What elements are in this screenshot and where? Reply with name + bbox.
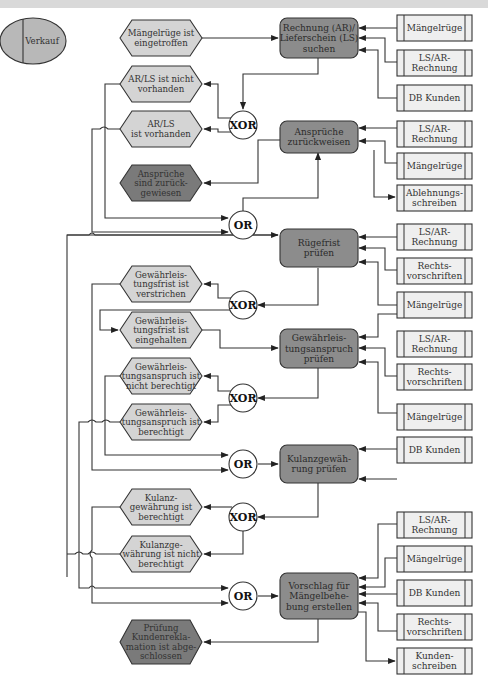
node-label-line: LS/AR- xyxy=(419,334,451,344)
node-label-line: berechtigt xyxy=(138,427,184,437)
event-e6[interactable]: Gewährleis-tungsfrist isteingehalten xyxy=(120,312,202,348)
document-d4[interactable]: LS/AR-Rechnung xyxy=(397,121,472,147)
node-label-line: gewiesen xyxy=(141,188,182,198)
document-d9[interactable]: Mängelrüge xyxy=(397,292,472,318)
node-label-line: Mängelrüge xyxy=(407,412,463,422)
node-label-line: prüfen xyxy=(304,354,335,364)
event-e3[interactable]: AR/LSist vorhanden xyxy=(120,111,202,147)
node-label-line: AR/LS ist nicht xyxy=(127,74,194,84)
node-label-line: ist vorhanden xyxy=(131,129,191,139)
document-d6[interactable]: Ablehnungs-schreiben xyxy=(397,185,472,211)
document-d18[interactable]: Kunden-schreiben xyxy=(397,648,472,674)
function-f4[interactable]: Gewährleis-tungsanspruchprüfen xyxy=(280,329,358,368)
document-d11[interactable]: Rechts-vorschriften xyxy=(397,364,472,390)
function-f3[interactable]: Rügefristprüfen xyxy=(280,229,358,267)
node-label-line: tungsanspruch ist xyxy=(122,371,201,381)
document-d12[interactable]: Mängelrüge xyxy=(397,404,472,430)
operator-label: OR xyxy=(234,458,254,471)
node-label-line: rung prüfen xyxy=(292,464,347,474)
function-f1[interactable]: Rechnung (AR)/Lieferschein (LS)suchen xyxy=(280,18,359,58)
node-label-line: Kulanz- xyxy=(145,493,178,503)
event-e2[interactable]: AR/LS ist nichtvorhanden xyxy=(120,66,202,102)
node-label-line: prüfen xyxy=(304,248,335,258)
document-d5[interactable]: Mängelrüge xyxy=(397,153,472,179)
event-e11[interactable]: PrüfungKundenrekla-mation ist abge-schlo… xyxy=(120,620,202,664)
node-label-line: Rügefrist xyxy=(298,238,341,248)
node-label-line: LS/AR- xyxy=(419,515,451,525)
node-label-line: LS/AR- xyxy=(419,124,451,134)
operator-xor-x2[interactable]: XOR xyxy=(229,291,257,319)
operator-or-o1[interactable]: OR xyxy=(229,211,257,239)
node-label-line: eingetroffen xyxy=(134,38,188,48)
operator-label: OR xyxy=(234,219,254,232)
document-d15[interactable]: Mängelrüge xyxy=(397,546,472,572)
document-d1[interactable]: Mängelrüge xyxy=(397,15,472,41)
event-e10[interactable]: Kulanzge-währung ist nichtberechtigt xyxy=(120,536,202,572)
node-label-line: Kunden- xyxy=(415,651,453,661)
documents: MängelrügeLS/AR-RechnungDB KundenLS/AR-R… xyxy=(397,15,472,674)
operator-label: XOR xyxy=(229,392,257,405)
node-label-line: Rechnung xyxy=(411,525,457,535)
node-label-line: Ansprüche xyxy=(294,127,344,137)
node-label-line: vorschriften xyxy=(406,271,463,281)
node-label-line: DB Kunden xyxy=(409,445,461,455)
node-label-line: LS/AR- xyxy=(419,53,451,63)
node-label-line: vorschriften xyxy=(406,627,463,637)
node-label-line: sind zurück- xyxy=(134,178,188,188)
node-label-line: Mängelrüge xyxy=(407,300,463,310)
node-label-line: tungsfrist ist xyxy=(133,325,189,335)
document-d16[interactable]: DB Kunden xyxy=(397,580,472,606)
node-label-line: schlossen xyxy=(140,651,183,661)
operator-xor-x3[interactable]: XOR xyxy=(229,384,257,412)
node-label-line: Rechts- xyxy=(417,367,451,377)
node-label-line: bung erstellen xyxy=(286,602,352,612)
node-label-line: Gewährleis- xyxy=(135,362,187,372)
org-unit-label: Verkauf xyxy=(24,36,59,46)
document-d7[interactable]: LS/AR-Rechnung xyxy=(397,224,472,250)
event-e4[interactable]: Ansprüchesind zurück-gewiesen xyxy=(120,165,202,201)
node-label-line: Kundenrekla- xyxy=(132,632,191,642)
operator-xor-x4[interactable]: XOR xyxy=(229,503,257,531)
node-label-line: DB Kunden xyxy=(409,588,461,598)
operator-or-o3[interactable]: OR xyxy=(229,582,257,610)
node-label-line: Ablehnungs- xyxy=(405,188,463,198)
operator-xor-x1[interactable]: XOR xyxy=(229,111,257,139)
node-label-line: nicht berechtigt xyxy=(126,381,197,391)
node-label-line: zurückweisen xyxy=(288,137,351,147)
operator-label: XOR xyxy=(229,119,257,132)
document-d14[interactable]: LS/AR-Rechnung xyxy=(397,512,472,538)
operator-label: XOR xyxy=(229,299,257,312)
document-d13[interactable]: DB Kunden xyxy=(397,437,472,463)
event-e5[interactable]: Gewährleis-tungsfrist istverstrichen xyxy=(120,266,202,302)
node-label-line: Gewährleis- xyxy=(292,333,346,343)
org-unit-verkauf[interactable]: Verkauf xyxy=(0,18,66,64)
node-label-line: schreiben xyxy=(412,661,457,671)
events: Mängelrüge isteingetroffenAR/LS ist nich… xyxy=(120,20,202,664)
node-label-line: Kulanzgewäh- xyxy=(287,454,351,464)
node-label-line: schreiben xyxy=(412,198,457,208)
event-e1[interactable]: Mängelrüge isteingetroffen xyxy=(120,20,202,56)
event-e8[interactable]: Gewährleis-tungsanspruch istberechtigt xyxy=(120,404,202,440)
event-e9[interactable]: Kulanz-gewährung istberechtigt xyxy=(120,489,202,525)
function-f5[interactable]: Kulanzgewäh-rung prüfen xyxy=(280,445,358,483)
node-label-line: Rechnung xyxy=(411,63,457,73)
document-d8[interactable]: Rechts-vorschriften xyxy=(397,258,472,284)
node-label-line: Lieferschein (LS) xyxy=(280,33,359,43)
document-d2[interactable]: LS/AR-Rechnung xyxy=(397,50,472,76)
function-f6[interactable]: Vorschlag fürMängelbehe-bung erstellen xyxy=(280,573,358,619)
function-f2[interactable]: Ansprüchezurückweisen xyxy=(280,121,358,153)
node-label-line: Mängelrüge ist xyxy=(128,28,195,38)
node-label-line: Mängelrüge xyxy=(407,161,463,171)
node-label-line: DB Kunden xyxy=(409,93,461,103)
operator-or-o2[interactable]: OR xyxy=(229,450,257,478)
event-e7[interactable]: Gewährleis-tungsanspruch istnicht berech… xyxy=(120,358,202,394)
document-d10[interactable]: LS/AR-Rechnung xyxy=(397,331,472,357)
node-label-line: vorhanden xyxy=(137,84,185,94)
node-label-line: LS/AR- xyxy=(419,227,451,237)
node-label-line: Ansprüche xyxy=(137,169,185,179)
node-label-line: AR/LS xyxy=(146,119,174,129)
epc-diagram: Verkauf Mängelrüge isteingetroffenAR/LS … xyxy=(0,0,488,683)
node-label-line: berechtigt xyxy=(138,512,184,522)
document-d3[interactable]: DB Kunden xyxy=(397,85,472,111)
document-d17[interactable]: Rechts-vorschriften xyxy=(397,614,472,640)
